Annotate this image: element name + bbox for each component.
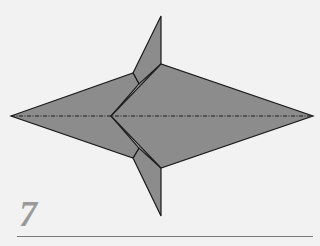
step-divider-rule <box>17 236 313 237</box>
origami-diagram <box>0 0 320 246</box>
step-number: 7 <box>19 196 37 232</box>
